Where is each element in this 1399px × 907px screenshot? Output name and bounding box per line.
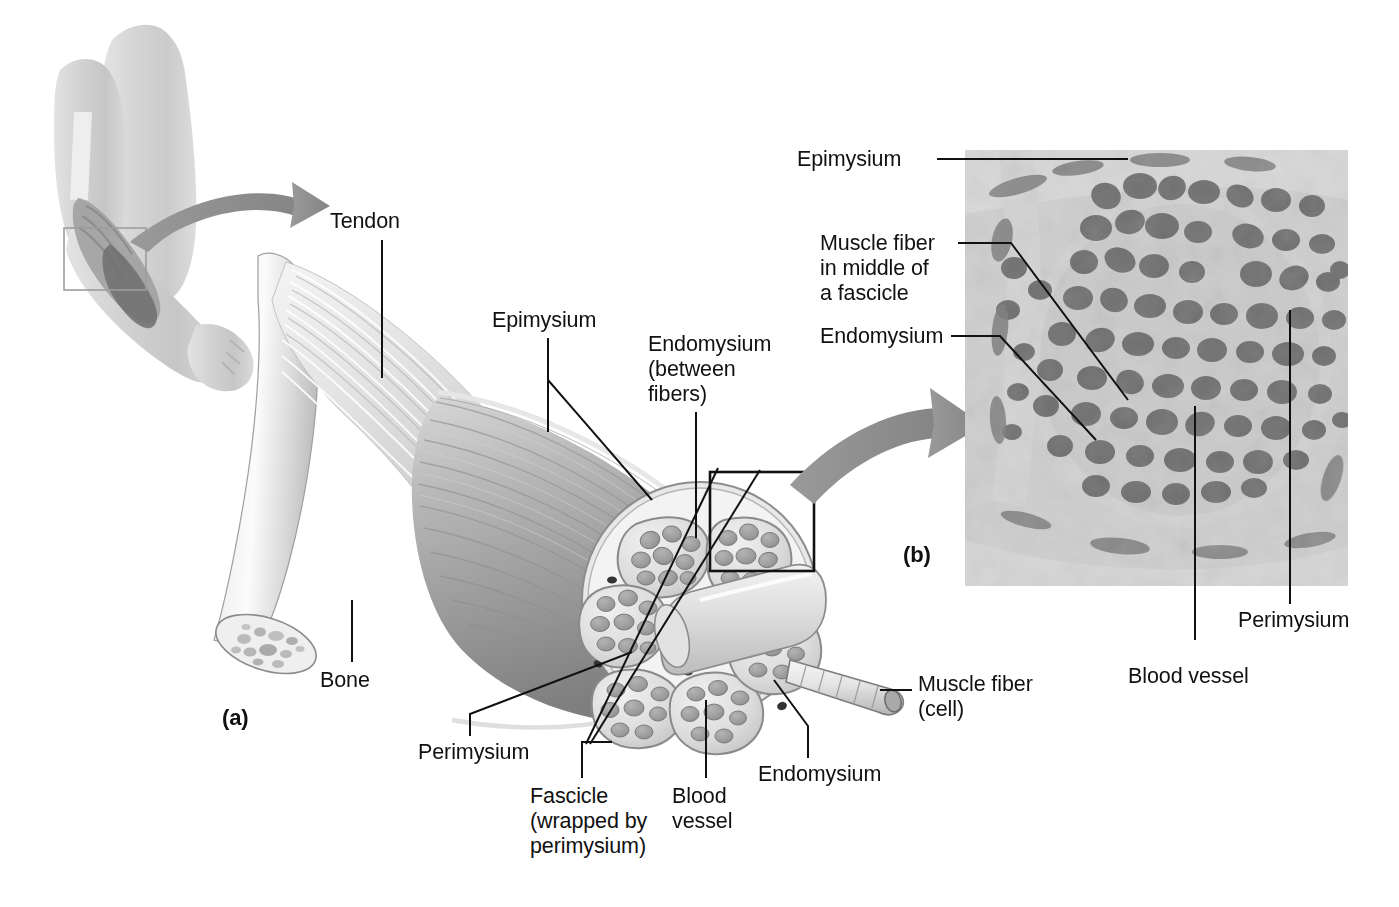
muscle-fiber-cell-tube <box>786 660 904 715</box>
label-epimysium-a: Epimysium <box>492 308 596 333</box>
artwork-layer <box>0 0 1399 907</box>
label-blood-vessel-a: Blood vessel <box>672 784 732 834</box>
label-fascicle: Fascicle (wrapped by perimysium) <box>530 784 647 859</box>
panel-b-marker: (b) <box>903 542 931 567</box>
label-muscle-fiber-in-middle: Muscle fiber in middle of a fascicle <box>820 231 935 306</box>
label-bone: Bone <box>320 668 370 693</box>
label-blood-vessel-b: Blood vessel <box>1128 664 1249 689</box>
label-tendon: Tendon <box>330 209 400 234</box>
muscle-cross-section <box>579 472 904 754</box>
label-perimysium-a: Perimysium <box>418 740 529 765</box>
muscle-anatomy-figure: Tendon Epimysium Endomysium (between fib… <box>0 0 1399 907</box>
label-muscle-fiber-cell: Muscle fiber (cell) <box>918 672 1033 722</box>
label-endomysium-a: Endomysium <box>758 762 881 787</box>
label-endomysium-b: Endomysium <box>820 324 943 349</box>
label-perimysium-b: Perimysium <box>1238 608 1349 633</box>
label-endomysium-between-fibers: Endomysium (between fibers) <box>648 332 771 407</box>
label-epimysium-b: Epimysium <box>797 147 901 172</box>
muscle-micrograph <box>965 150 1352 586</box>
zoom-transition-arrow <box>790 388 984 504</box>
panel-a-marker: (a) <box>222 705 249 730</box>
